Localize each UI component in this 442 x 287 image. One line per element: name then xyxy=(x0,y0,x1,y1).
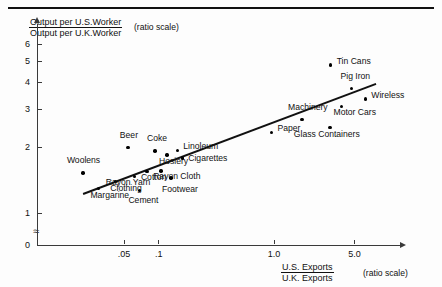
x-axis-line xyxy=(37,245,400,246)
data-point xyxy=(153,149,156,152)
y-axis-tick-label: 4 xyxy=(25,78,30,87)
data-point-label: Tin Cans xyxy=(337,57,371,66)
data-point xyxy=(81,171,84,174)
x-axis-title: U.S. Exports U.K. Exports xyxy=(281,262,334,283)
x-axis-ratio-note: (ratio scale) xyxy=(363,268,408,278)
x-axis-tick-label: .1 xyxy=(151,250,167,259)
x-axis-tick-label: .05 xyxy=(116,250,132,259)
scatter-chart: Output per U.S.Worker Output per U.K.Wor… xyxy=(0,0,442,287)
y-axis-tick xyxy=(38,44,42,45)
y-axis-ratio-note: (ratio scale) xyxy=(134,22,179,32)
data-point xyxy=(169,176,172,179)
data-point xyxy=(329,63,332,66)
y-axis-break-icon: ≈ xyxy=(33,226,39,237)
y-axis-tick xyxy=(38,213,42,214)
y-axis-title-denominator: Output per U.K.Worker xyxy=(29,28,122,38)
y-axis-tick xyxy=(38,147,42,148)
x-axis-tick xyxy=(158,240,159,244)
y-axis-title-numerator: Output per U.S.Worker xyxy=(29,17,122,28)
data-point xyxy=(181,156,184,159)
y-axis-arrow-icon xyxy=(34,17,40,23)
data-point-label: Cement xyxy=(128,196,158,205)
data-point xyxy=(126,146,129,149)
y-axis-tick xyxy=(38,61,42,62)
data-point-label: Footwear xyxy=(162,185,198,194)
data-point xyxy=(350,87,353,90)
x-axis-tick xyxy=(274,240,275,244)
data-point xyxy=(270,131,273,134)
data-point-label: Linoleum xyxy=(183,142,218,151)
data-point-label: Glass Containers xyxy=(294,130,360,139)
x-axis-title-denominator: U.K. Exports xyxy=(281,273,334,283)
data-point-label: Machinery xyxy=(288,103,328,112)
top-rule xyxy=(8,7,434,9)
y-axis-tick-label: 2 xyxy=(25,143,30,152)
data-point-label: Pig Iron xyxy=(340,72,370,81)
data-point-label: Wireless xyxy=(371,91,404,100)
x-axis-arrow-icon xyxy=(400,242,406,248)
y-axis-tick-label: 0 xyxy=(25,241,30,250)
data-point-label: Woolens xyxy=(67,156,100,165)
data-point-label: Cigarettes xyxy=(188,154,227,163)
x-axis-tick-label: 1.0 xyxy=(266,250,282,259)
data-point xyxy=(300,118,303,121)
y-axis-tick-label: 6 xyxy=(25,40,30,49)
data-point-label: Motor Cars xyxy=(333,108,376,117)
x-axis-title-numerator: U.S. Exports xyxy=(281,262,334,273)
y-axis-tick xyxy=(38,82,42,83)
y-axis-tick-label: 1 xyxy=(25,209,30,218)
y-axis-tick xyxy=(38,109,42,110)
data-point xyxy=(176,149,179,152)
y-axis-title: Output per U.S.Worker Output per U.K.Wor… xyxy=(29,17,122,38)
data-point-label: Beer xyxy=(120,131,138,140)
y-axis-tick-label: 5 xyxy=(25,57,30,66)
data-point-label: Coke xyxy=(147,134,167,143)
x-axis-tick-label: 5.0 xyxy=(347,250,363,259)
x-axis-tick xyxy=(124,240,125,244)
data-point xyxy=(364,97,367,100)
data-point-label: Rayon Cloth xyxy=(153,172,200,181)
x-axis-tick xyxy=(354,240,355,244)
y-axis-tick-label: 3 xyxy=(25,105,30,114)
